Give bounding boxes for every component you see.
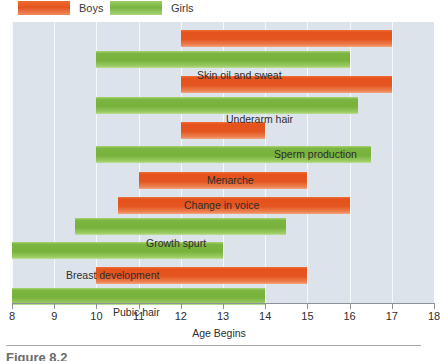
x-axis-tick <box>434 303 435 309</box>
legend-item-boys: Boys <box>18 1 103 15</box>
x-axis-tick <box>96 303 97 309</box>
legend-label-boys: Boys <box>79 2 103 14</box>
x-axis-tick <box>350 303 351 309</box>
bar-label: Sperm production <box>274 149 357 160</box>
x-axis-tick <box>223 303 224 309</box>
bar-label: Skin oil and sweat <box>197 70 282 81</box>
x-axis-tick-label: 14 <box>259 310 271 322</box>
gridline <box>434 22 435 303</box>
legend-swatch-girls-icon <box>110 1 162 15</box>
x-axis-tick <box>307 303 308 309</box>
bar-boys-skin-oil-and-sweat <box>181 30 392 47</box>
x-axis-title: Age Begins <box>0 327 438 339</box>
bar-girls-growth-spurt <box>75 218 286 235</box>
x-axis-tick-label: 11 <box>133 310 144 322</box>
x-axis-tick <box>265 303 266 309</box>
bar-girls-skin-oil-and-sweat <box>96 51 349 68</box>
legend-swatch-boys-icon <box>18 1 70 15</box>
x-axis-tick-label: 17 <box>386 310 398 322</box>
x-axis-tick-label: 12 <box>175 310 187 322</box>
x-axis-tick <box>392 303 393 309</box>
x-axis-tick <box>181 303 182 309</box>
x-axis-tick-label: 15 <box>301 310 313 322</box>
bar-label: Change in voice <box>184 200 259 211</box>
caption-divider <box>6 345 421 346</box>
legend-item-girls: Girls <box>110 1 194 15</box>
x-axis-tick <box>139 303 140 309</box>
gridline <box>392 22 393 303</box>
x-axis-tick-label: 9 <box>51 310 57 322</box>
chart-legend: Boys Girls <box>0 0 438 20</box>
x-axis-tick <box>54 303 55 309</box>
legend-label-girls: Girls <box>171 2 194 14</box>
x-axis-tick-label: 13 <box>217 310 229 322</box>
figure-caption: Figure 8.2 <box>6 350 67 361</box>
x-axis-tick-label: 10 <box>90 310 102 322</box>
x-axis-tick-label: 16 <box>343 310 355 322</box>
bar-label: Underarm hair <box>226 114 293 125</box>
x-axis-tick-label: 8 <box>9 310 15 322</box>
bar-label: Menarche <box>207 175 254 186</box>
bar-label: Breast development <box>66 270 159 281</box>
chart-plot-area: Skin oil and sweatUnderarm hairSperm pro… <box>12 22 434 303</box>
gridline <box>12 22 13 303</box>
gridline <box>54 22 55 303</box>
bar-girls-underarm-hair <box>96 97 358 114</box>
bar-label: Growth spurt <box>146 238 206 249</box>
x-axis-tick <box>12 303 13 309</box>
x-axis-tick-label: 18 <box>428 310 440 322</box>
